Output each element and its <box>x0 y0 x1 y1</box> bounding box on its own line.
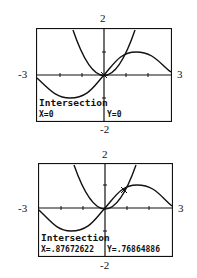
y-readout: Y=0 <box>107 110 122 119</box>
y-max-label: 2 <box>100 13 106 24</box>
graph-panel-1: 2 -3 3 -2 Intersection X=0 Y=0 <box>0 0 197 139</box>
graph-screen: Intersection X=.87672622 Y=.76864886 <box>38 163 173 257</box>
y-min-label: -2 <box>100 124 109 135</box>
graph-panel-2: 2 -3 3 -2 Intersection X=.87672622 Y=.76… <box>0 139 197 278</box>
x-readout: X=.87672622 <box>41 245 94 254</box>
x-max-label: 3 <box>177 69 183 80</box>
graph-screen: Intersection X=0 Y=0 <box>36 28 172 122</box>
y-min-label: -2 <box>100 260 109 271</box>
x-max-label: 3 <box>178 203 184 214</box>
readout-title: Intersection <box>39 97 108 108</box>
y-readout: Y=.76864886 <box>107 245 160 254</box>
x-min-label: -3 <box>18 203 27 214</box>
y-max-label: 2 <box>102 149 108 160</box>
readout-title: Intersection <box>41 232 110 243</box>
x-min-label: -3 <box>18 69 27 80</box>
x-readout: X=0 <box>39 110 54 119</box>
